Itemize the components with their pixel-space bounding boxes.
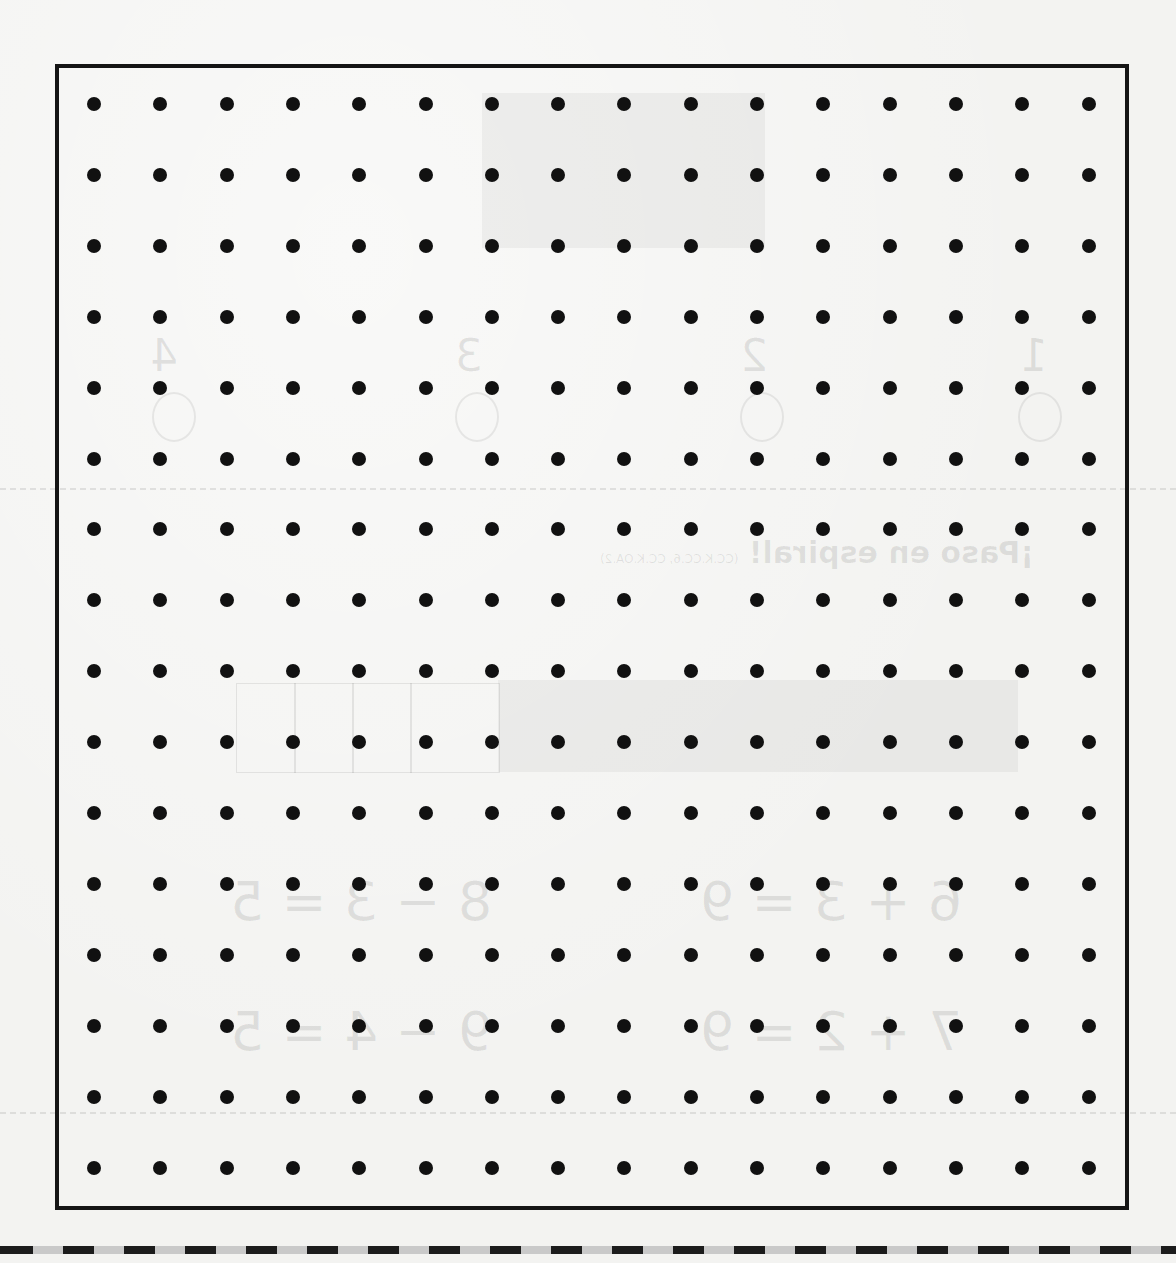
grid-dot — [750, 97, 764, 111]
grid-dot — [750, 1090, 764, 1104]
grid-dot — [750, 310, 764, 324]
grid-dot — [551, 168, 565, 182]
grid-dot — [220, 168, 234, 182]
grid-dot — [1082, 948, 1096, 962]
grid-dot — [352, 168, 366, 182]
grid-dot — [87, 239, 101, 253]
grid-dot — [220, 806, 234, 820]
grid-dot — [949, 735, 963, 749]
grid-dot — [684, 948, 698, 962]
grid-dot — [485, 168, 499, 182]
grid-dot — [883, 310, 897, 324]
grid-dot — [949, 239, 963, 253]
grid-dot — [1082, 664, 1096, 678]
grid-dot — [617, 1161, 631, 1175]
grid-dot — [883, 593, 897, 607]
grid-dot — [551, 1161, 565, 1175]
grid-dot — [750, 735, 764, 749]
grid-dot — [750, 452, 764, 466]
grid-dot — [153, 310, 167, 324]
grid-dot — [87, 452, 101, 466]
dot-grid-frame — [55, 64, 1129, 1210]
grid-dot — [352, 877, 366, 891]
grid-dot — [883, 735, 897, 749]
grid-dot — [1082, 735, 1096, 749]
grid-dot — [419, 806, 433, 820]
grid-dot — [1015, 239, 1029, 253]
grid-dot — [153, 381, 167, 395]
grid-dot — [883, 168, 897, 182]
grid-dot — [419, 948, 433, 962]
grid-dot — [1082, 877, 1096, 891]
grid-dot — [286, 239, 300, 253]
grid-dot — [286, 735, 300, 749]
grid-dot — [1015, 1090, 1029, 1104]
grid-dot — [949, 806, 963, 820]
grid-dot — [949, 1090, 963, 1104]
grid-dot — [1015, 1161, 1029, 1175]
grid-dot — [816, 1090, 830, 1104]
grid-dot — [684, 1090, 698, 1104]
grid-dot — [684, 593, 698, 607]
grid-dot — [949, 452, 963, 466]
grid-dot — [617, 310, 631, 324]
grid-dot — [485, 381, 499, 395]
grid-dot — [1082, 1090, 1096, 1104]
grid-dot — [419, 735, 433, 749]
dashed-cut-line — [0, 1246, 1176, 1254]
grid-dot — [220, 97, 234, 111]
grid-dot — [883, 664, 897, 678]
grid-dot — [684, 1019, 698, 1033]
grid-dot — [352, 239, 366, 253]
grid-dot — [1015, 1019, 1029, 1033]
grid-dot — [419, 168, 433, 182]
grid-dot — [352, 1090, 366, 1104]
grid-dot — [485, 97, 499, 111]
grid-dot — [949, 381, 963, 395]
grid-dot — [551, 948, 565, 962]
grid-dot — [419, 1019, 433, 1033]
grid-dot — [286, 310, 300, 324]
grid-dot — [883, 877, 897, 891]
grid-dot — [617, 452, 631, 466]
grid-dot — [816, 381, 830, 395]
grid-dot — [419, 593, 433, 607]
grid-dot — [883, 806, 897, 820]
grid-dot — [153, 948, 167, 962]
grid-dot — [551, 381, 565, 395]
grid-dot — [153, 1161, 167, 1175]
grid-dot — [87, 97, 101, 111]
grid-dot — [286, 1090, 300, 1104]
grid-dot — [352, 310, 366, 324]
grid-dot — [551, 877, 565, 891]
grid-dot — [419, 310, 433, 324]
grid-dot — [220, 381, 234, 395]
grid-dot — [485, 1161, 499, 1175]
grid-dot — [1015, 310, 1029, 324]
grid-dot — [883, 1090, 897, 1104]
grid-dot — [816, 310, 830, 324]
grid-dot — [220, 735, 234, 749]
grid-dot — [485, 1090, 499, 1104]
grid-dot — [286, 381, 300, 395]
grid-dot — [485, 735, 499, 749]
grid-dot — [485, 806, 499, 820]
grid-dot — [684, 239, 698, 253]
grid-dot — [684, 735, 698, 749]
grid-dot — [750, 381, 764, 395]
grid-dot — [220, 1019, 234, 1033]
grid-dot — [551, 1019, 565, 1033]
grid-dot — [617, 1019, 631, 1033]
grid-dot — [87, 381, 101, 395]
grid-dot — [750, 806, 764, 820]
grid-dot — [684, 452, 698, 466]
grid-dot — [1015, 168, 1029, 182]
grid-dot — [153, 239, 167, 253]
grid-dot — [883, 239, 897, 253]
grid-dot — [419, 97, 433, 111]
grid-dot — [684, 806, 698, 820]
grid-dot — [551, 806, 565, 820]
grid-dot — [419, 1161, 433, 1175]
grid-dot — [617, 1090, 631, 1104]
grid-dot — [87, 1161, 101, 1175]
